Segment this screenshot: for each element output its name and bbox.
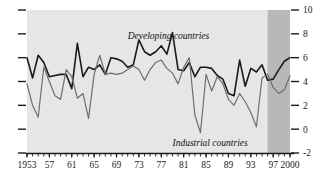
x-axis-tick-label: 93 bbox=[246, 160, 256, 170]
x-axis-tick-label: 61 bbox=[67, 160, 77, 170]
y-axis-tick-label: 10 bbox=[303, 5, 313, 15]
series-label-developing-countries: Developing countries bbox=[127, 31, 210, 41]
series-label-industrial-countries: Industrial countries bbox=[171, 138, 248, 148]
line-chart: 1953576165697377818589939720001086420-2D… bbox=[0, 0, 323, 181]
y-axis-tick-label: 8 bbox=[303, 29, 308, 39]
y-axis-tick-label: -2 bbox=[303, 148, 311, 158]
chart-container: 1953576165697377818589939720001086420-2D… bbox=[0, 0, 323, 181]
x-axis-tick-label: 77 bbox=[157, 160, 167, 170]
x-axis-tick-label: 2000 bbox=[281, 160, 300, 170]
y-axis-tick-label: 6 bbox=[303, 53, 308, 63]
x-axis-tick-label: 65 bbox=[89, 160, 99, 170]
x-axis-tick-label: 81 bbox=[179, 160, 189, 170]
x-axis-tick-label: 85 bbox=[201, 160, 211, 170]
x-axis-tick-label: 69 bbox=[112, 160, 122, 170]
y-axis-tick-label: 0 bbox=[303, 125, 308, 135]
x-axis-tick-label: 73 bbox=[134, 160, 144, 170]
x-axis-tick-label: 89 bbox=[224, 160, 234, 170]
x-axis-tick-label: 97 bbox=[268, 160, 278, 170]
x-axis-tick-label: 1953 bbox=[18, 160, 37, 170]
y-axis-tick-label: 4 bbox=[303, 77, 308, 87]
y-axis-tick-label: 2 bbox=[303, 101, 308, 111]
x-axis-tick-label: 57 bbox=[45, 160, 55, 170]
